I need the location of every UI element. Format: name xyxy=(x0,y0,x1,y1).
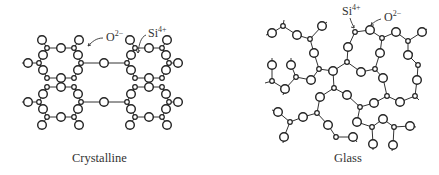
oxygen-ion xyxy=(162,105,171,114)
oxygen-ion xyxy=(57,44,66,53)
oxygen-ion xyxy=(389,141,398,150)
silicon-ion xyxy=(281,24,286,29)
oxygen-ion xyxy=(162,66,171,75)
silicon-ion xyxy=(406,39,411,44)
silicon-ion xyxy=(392,125,397,130)
glass-oxygen-label: O2− xyxy=(371,9,402,25)
silicon-ion xyxy=(332,86,337,91)
silicon-ion xyxy=(72,115,77,120)
oxygen-ion xyxy=(75,36,84,45)
oxygen-ion xyxy=(74,51,83,60)
oxygen-ion xyxy=(163,36,172,45)
oxygen-ion xyxy=(74,105,83,114)
oxygen-ion xyxy=(344,43,353,52)
silicon-ion xyxy=(288,120,293,125)
oxygen-ion xyxy=(404,51,413,60)
oxygen-ion xyxy=(75,121,84,130)
oxygen-ion xyxy=(127,105,136,114)
silica-structure-diagram: O2− Si4+ Crystalline Si4+ O2− Glass xyxy=(0,0,439,175)
silicon-ion xyxy=(370,125,375,130)
oxygen-ion xyxy=(376,49,385,58)
oxygen-ion xyxy=(39,66,48,75)
oxygen-ion xyxy=(127,51,136,60)
silicon-ion xyxy=(416,63,421,68)
silicon-ion xyxy=(72,46,77,51)
silicon-ion xyxy=(167,61,172,66)
oxygen-ion xyxy=(100,59,109,68)
oxygen-ion xyxy=(324,121,333,130)
oxygen-ion xyxy=(379,74,388,83)
svg-text:O2−: O2− xyxy=(106,29,124,44)
silicon-ion xyxy=(315,111,320,116)
oxygen-ion xyxy=(162,90,171,99)
oxygen-ion xyxy=(174,59,183,68)
oxygen-ion xyxy=(413,76,422,85)
oxygen-ion xyxy=(126,121,135,130)
oxygen-ion xyxy=(349,133,358,142)
silicon-ion xyxy=(353,30,358,35)
caption-glass: Glass xyxy=(334,151,362,165)
silicon-ion xyxy=(160,85,165,90)
oxygen-ion xyxy=(39,105,48,114)
crystalline-oxygen-label: O2− xyxy=(88,29,124,46)
silicon-ion xyxy=(270,79,275,84)
svg-text:Si4+: Si4+ xyxy=(342,3,361,18)
silicon-ion xyxy=(413,94,418,99)
oxygen-ion xyxy=(127,66,136,75)
oxygen-ion xyxy=(353,118,362,127)
oxygen-ion xyxy=(274,108,283,117)
silicon-ion xyxy=(79,61,84,66)
oxygen-ion xyxy=(100,98,109,107)
oxygen-ion xyxy=(316,93,325,102)
oxygen-ion xyxy=(293,31,302,40)
oxygen-ion xyxy=(307,76,316,85)
oxygen-ion xyxy=(39,90,48,99)
silicon-ion xyxy=(345,60,350,65)
silicon-ion xyxy=(385,94,390,99)
oxygen-ion xyxy=(418,28,427,37)
silicon-ion xyxy=(133,46,138,51)
oxygen-ion xyxy=(370,99,379,108)
oxygen-ion xyxy=(379,115,388,124)
silicon-ion xyxy=(72,85,77,90)
oxygen-ion xyxy=(268,61,277,70)
silicon-ion xyxy=(308,37,313,42)
oxygen-ion xyxy=(162,51,171,60)
oxygen-ion xyxy=(343,91,352,100)
oxygen-ion xyxy=(268,29,277,38)
oxygen-ion xyxy=(310,49,319,58)
glass-silicon-label: Si4+ xyxy=(342,3,361,28)
silicon-ion xyxy=(373,67,378,72)
oxygen-ion xyxy=(145,74,154,83)
silicon-ion xyxy=(79,100,84,105)
silicon-ion xyxy=(45,76,50,81)
silicon-ion xyxy=(45,46,50,51)
oxygen-ion xyxy=(145,83,154,92)
silicon-ion xyxy=(133,85,138,90)
oxygen-ion xyxy=(24,98,33,107)
silicon-ion xyxy=(45,85,50,90)
silicon-ion xyxy=(37,61,42,66)
crystalline-network xyxy=(22,36,183,130)
oxygen-ion xyxy=(74,90,83,99)
oxygen-ion xyxy=(281,85,290,94)
oxygen-ion xyxy=(299,113,308,122)
silicon-ion xyxy=(380,36,385,41)
oxygen-ion xyxy=(39,51,48,60)
oxygen-ion xyxy=(57,83,66,92)
oxygen-ion xyxy=(329,67,338,76)
oxygen-ion xyxy=(280,133,289,142)
glass-network xyxy=(265,20,427,151)
silicon-ion xyxy=(167,100,172,105)
oxygen-ion xyxy=(406,122,415,131)
silicon-ion xyxy=(334,135,339,140)
oxygen-ion xyxy=(174,98,183,107)
silicon-ion xyxy=(72,76,77,81)
silicon-ion xyxy=(160,46,165,51)
silicon-ion xyxy=(133,115,138,120)
silicon-ion xyxy=(294,75,299,80)
oxygen-ion xyxy=(163,121,172,130)
oxygen-ion xyxy=(74,66,83,75)
silicon-ion xyxy=(317,67,322,72)
silicon-ion xyxy=(45,115,50,120)
